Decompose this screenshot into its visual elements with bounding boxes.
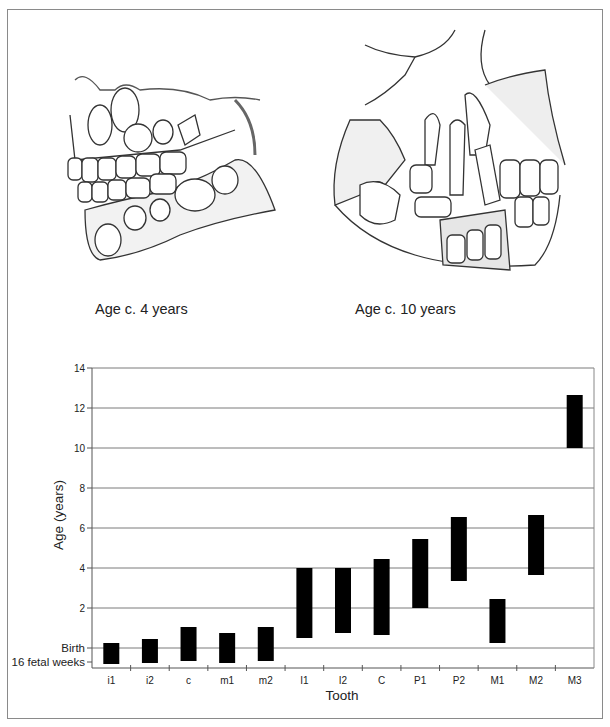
x-axis-label: Tooth [325,688,358,703]
y-axis-label: Age (years) [51,480,66,550]
y-tick-label: 2 [79,603,85,614]
x-tick-label: i2 [146,675,154,686]
tooth-formation-chart: 1412108642Birth16 fetal weeks i1i2cm1m2I… [0,0,610,727]
x-tick-label: c [186,675,191,686]
x-tick-label: P1 [414,675,427,686]
y-tick-label: 8 [79,483,85,494]
bar-M1 [489,599,505,643]
x-tick-label: M1 [491,675,505,686]
chart-bars [103,395,582,664]
x-tick-label: I2 [339,675,348,686]
bar-i2 [142,639,158,663]
bar-C [374,559,390,635]
x-tick-label: i1 [107,675,115,686]
y-tick-label: 6 [79,523,85,534]
x-tick-label: I1 [300,675,309,686]
bar-I2 [335,568,351,633]
bar-M3 [567,395,583,448]
x-tick-label: P2 [453,675,466,686]
bar-m2 [258,627,274,661]
y-tick-label: 4 [79,563,85,574]
bar-P2 [451,517,467,581]
x-tick-label: m1 [220,675,234,686]
x-tick-label: m2 [259,675,273,686]
x-tick-label: M3 [568,675,582,686]
y-tick-label: 14 [74,363,86,374]
bar-i1 [103,643,119,664]
y-tick-label: Birth [61,642,85,654]
bar-I1 [296,568,312,638]
y-tick-label: 16 fetal weeks [11,656,85,668]
y-tick-label: 12 [74,403,86,414]
x-tick-label: M2 [529,675,543,686]
x-tick-label: C [378,675,385,686]
bar-c [181,627,197,661]
bar-P1 [412,539,428,608]
bar-M2 [528,515,544,575]
bar-m1 [219,633,235,663]
y-tick-label: 10 [74,443,86,454]
